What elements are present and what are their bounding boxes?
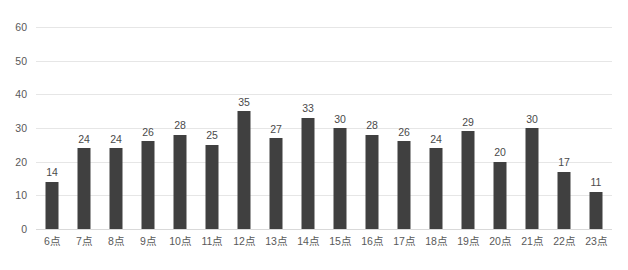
bar[interactable] bbox=[270, 138, 283, 229]
bar[interactable] bbox=[494, 162, 507, 229]
x-axis-tick-label: 21点 bbox=[516, 236, 548, 247]
bar-group: 25 bbox=[196, 27, 228, 229]
y-axis-tick-label: 50 bbox=[1, 56, 27, 67]
bar-value-label: 11 bbox=[591, 177, 602, 188]
bar[interactable] bbox=[142, 141, 155, 229]
bar-group: 26 bbox=[132, 27, 164, 229]
bar-value-label: 35 bbox=[238, 97, 250, 108]
bar[interactable] bbox=[430, 148, 443, 229]
y-axis-tick-label: 60 bbox=[1, 22, 27, 33]
x-axis-tick-label: 18点 bbox=[420, 236, 452, 247]
bar-group: 33 bbox=[292, 27, 324, 229]
bar-group: 30 bbox=[516, 27, 548, 229]
bar-group: 11 bbox=[580, 27, 612, 229]
bar[interactable] bbox=[462, 131, 475, 229]
bar[interactable] bbox=[78, 148, 91, 229]
bar[interactable] bbox=[46, 182, 59, 229]
bar-value-label: 24 bbox=[78, 134, 90, 145]
x-axis-tick-label: 17点 bbox=[388, 236, 420, 247]
bar[interactable] bbox=[334, 128, 347, 229]
y-axis-tick-label: 40 bbox=[1, 89, 27, 100]
bar-group: 24 bbox=[420, 27, 452, 229]
bar[interactable] bbox=[526, 128, 539, 229]
bar[interactable] bbox=[590, 192, 603, 229]
bar[interactable] bbox=[174, 135, 187, 229]
bar-group: 27 bbox=[260, 27, 292, 229]
bar-value-label: 33 bbox=[302, 103, 314, 114]
x-axis-tick-label: 11点 bbox=[196, 236, 228, 247]
x-axis-tick-label: 9点 bbox=[132, 236, 164, 247]
bar-value-label: 28 bbox=[174, 120, 186, 131]
y-axis-tick-label: 10 bbox=[1, 190, 27, 201]
bar-group: 29 bbox=[452, 27, 484, 229]
bar-group: 17 bbox=[548, 27, 580, 229]
bar-group: 24 bbox=[68, 27, 100, 229]
x-axis-tick-label: 8点 bbox=[100, 236, 132, 247]
x-axis-tick-label: 10点 bbox=[164, 236, 196, 247]
x-axis-tick-label: 23点 bbox=[580, 236, 612, 247]
bar[interactable] bbox=[238, 111, 251, 229]
bar-value-label: 26 bbox=[398, 127, 410, 138]
bar[interactable] bbox=[366, 135, 379, 229]
bar-value-label: 14 bbox=[46, 167, 58, 178]
x-axis-tick-label: 6点 bbox=[36, 236, 68, 247]
bar-value-label: 20 bbox=[494, 147, 506, 158]
bar[interactable] bbox=[206, 145, 219, 229]
x-axis-tick-label: 12点 bbox=[228, 236, 260, 247]
axis-baseline bbox=[36, 229, 612, 230]
bar-chart: 0102030405060 14242426282535273330282624… bbox=[0, 0, 628, 270]
x-axis-tick-label: 7点 bbox=[68, 236, 100, 247]
x-axis-tick-label: 15点 bbox=[324, 236, 356, 247]
bar-group: 28 bbox=[356, 27, 388, 229]
y-axis-tick-label: 20 bbox=[1, 157, 27, 168]
bar[interactable] bbox=[302, 118, 315, 229]
bar-value-label: 25 bbox=[206, 130, 218, 141]
bar-value-label: 17 bbox=[558, 157, 570, 168]
bar-value-label: 24 bbox=[430, 134, 442, 145]
bar-group: 35 bbox=[228, 27, 260, 229]
x-axis-tick-label: 14点 bbox=[292, 236, 324, 247]
y-axis-tick-label: 30 bbox=[1, 123, 27, 134]
bar-group: 24 bbox=[100, 27, 132, 229]
x-axis-tick-label: 19点 bbox=[452, 236, 484, 247]
bar-value-label: 24 bbox=[110, 134, 122, 145]
plot-area: 142424262825352733302826242920301711 bbox=[36, 27, 612, 229]
x-axis-tick-label: 20点 bbox=[484, 236, 516, 247]
bar[interactable] bbox=[558, 172, 571, 229]
x-axis: 6点7点8点9点10点11点12点13点14点15点16点17点18点19点20… bbox=[36, 236, 612, 256]
bar[interactable] bbox=[110, 148, 123, 229]
bar-value-label: 26 bbox=[142, 127, 154, 138]
bar-value-label: 30 bbox=[526, 114, 538, 125]
bar-value-label: 28 bbox=[366, 120, 378, 131]
x-axis-tick-label: 13点 bbox=[260, 236, 292, 247]
bar-group: 14 bbox=[36, 27, 68, 229]
bar[interactable] bbox=[398, 141, 411, 229]
bar-value-label: 30 bbox=[334, 114, 346, 125]
y-axis-tick-label: 0 bbox=[1, 224, 27, 235]
x-axis-tick-label: 22点 bbox=[548, 236, 580, 247]
bar-value-label: 29 bbox=[462, 117, 474, 128]
bar-group: 20 bbox=[484, 27, 516, 229]
bar-group: 30 bbox=[324, 27, 356, 229]
bar-value-label: 27 bbox=[270, 124, 282, 135]
x-axis-tick-label: 16点 bbox=[356, 236, 388, 247]
bar-group: 28 bbox=[164, 27, 196, 229]
bar-group: 26 bbox=[388, 27, 420, 229]
